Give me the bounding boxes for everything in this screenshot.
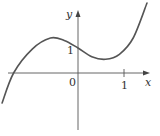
- x-tick-label-1: 1: [121, 79, 128, 92]
- x-axis-label: x: [145, 76, 152, 89]
- y-tick-label-1: 1: [67, 44, 74, 57]
- y-axis-arrow-icon: [76, 10, 81, 17]
- origin-label: 0: [69, 76, 76, 89]
- y-axis-label: y: [65, 8, 73, 21]
- function-graph: y x 0 1 1: [0, 0, 160, 136]
- x-axis-arrow-icon: [143, 71, 150, 76]
